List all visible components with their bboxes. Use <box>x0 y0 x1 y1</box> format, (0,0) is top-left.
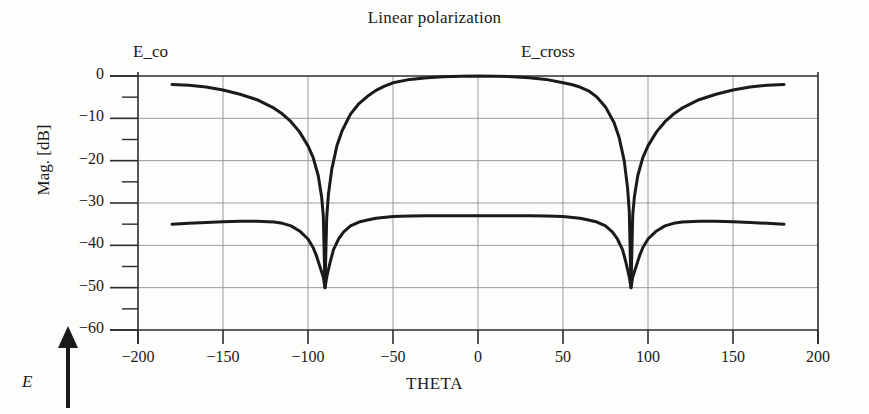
y-tick-label: −60 <box>14 319 104 337</box>
y-tick-label: 0 <box>14 65 104 83</box>
y-tick-label: −10 <box>14 107 104 125</box>
y-tick-label: −20 <box>14 150 104 168</box>
x-tick-label: 150 <box>688 348 778 366</box>
y-tick-label: −50 <box>14 277 104 295</box>
axis-ticks <box>110 76 818 344</box>
x-tick-label: 50 <box>518 348 608 366</box>
chart-figure: Linear polarization E_co E_cross Mag. [d… <box>0 0 869 414</box>
x-tick-label: −150 <box>178 348 268 366</box>
x-tick-label: 100 <box>603 348 693 366</box>
y-tick-label: −40 <box>14 234 104 252</box>
grid-lines <box>138 76 818 330</box>
y-tick-label: −30 <box>14 192 104 210</box>
x-tick-label: 0 <box>433 348 523 366</box>
plot-frame <box>110 72 818 344</box>
field-direction-arrow <box>58 326 78 408</box>
x-tick-label: 200 <box>773 348 863 366</box>
x-tick-label: −200 <box>93 348 183 366</box>
x-tick-label: −100 <box>263 348 353 366</box>
x-tick-label: −50 <box>348 348 438 366</box>
